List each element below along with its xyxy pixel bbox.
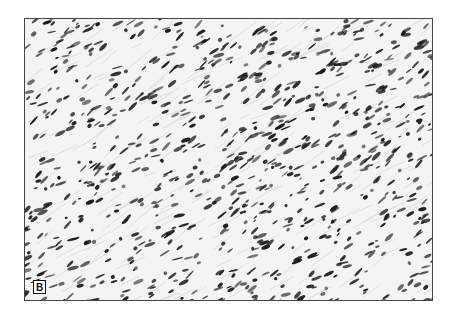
panel-label: B [33,280,46,294]
tissue-image [25,19,433,301]
micrograph-panel: B [24,18,433,301]
